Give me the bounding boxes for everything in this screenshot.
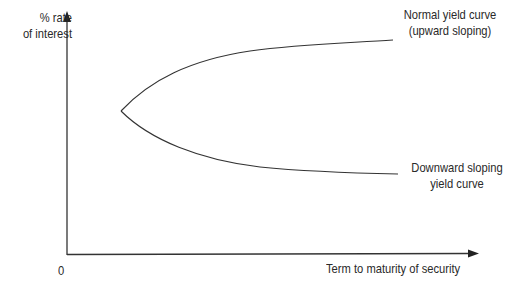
y-axis-label-line2: of interest bbox=[14, 26, 72, 42]
y-axis-label: % rate of interest bbox=[14, 10, 72, 42]
y-axis bbox=[63, 11, 71, 255]
x-axis bbox=[67, 250, 479, 258]
normal-yield-curve bbox=[121, 40, 393, 111]
downward-curve-label: Downward sloping yield curve bbox=[405, 160, 510, 192]
normal-curve-label-line1: Normal yield curve bbox=[399, 7, 500, 23]
x-axis-arrowhead-icon bbox=[468, 250, 479, 258]
normal-curve-label-line2: (upward sloping) bbox=[399, 23, 500, 39]
yield-curve-diagram bbox=[0, 0, 510, 283]
origin-label: 0 bbox=[58, 263, 64, 279]
downward-curve-label-line2: yield curve bbox=[405, 176, 510, 192]
downward-yield-curve bbox=[121, 111, 398, 174]
normal-curve-label: Normal yield curve (upward sloping) bbox=[399, 7, 500, 39]
downward-curve-label-line1: Downward sloping bbox=[405, 160, 510, 176]
x-axis-label: Term to maturity of security bbox=[326, 261, 460, 277]
y-axis-label-line1: % rate bbox=[14, 10, 72, 26]
